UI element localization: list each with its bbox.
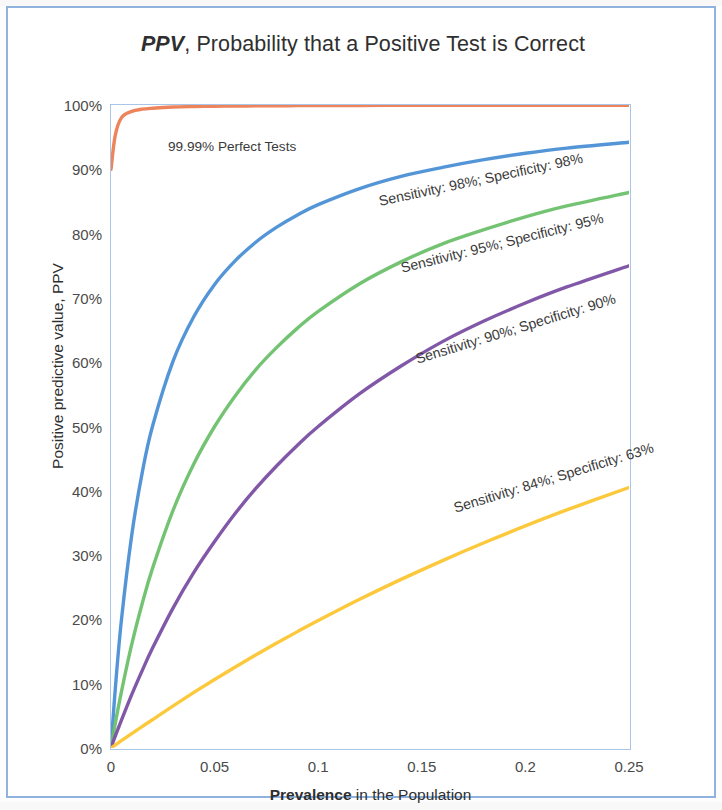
x-axis-title-rest: in the Population (352, 786, 472, 803)
y-tick-label: 90% (72, 161, 102, 178)
x-tick-label: 0.1 (308, 758, 329, 775)
y-axis-title: Positive predictive value, PPV (49, 166, 67, 566)
series-line-4 (111, 266, 629, 748)
y-tick-label: 80% (72, 225, 102, 242)
x-axis-title-emphasis: Prevalence (270, 786, 352, 803)
y-tick-label: 50% (72, 418, 102, 435)
x-tick-label: 0.2 (515, 758, 536, 775)
y-tick-label: 60% (72, 354, 102, 371)
x-tick-label: 0 (107, 758, 115, 775)
y-tick-label: 0% (80, 740, 102, 757)
chart-screenshot: PPV, Probability that a Positive Test is… (0, 0, 722, 810)
y-tick-label: 40% (72, 482, 102, 499)
x-tick-label: 0.25 (614, 758, 643, 775)
x-axis-title: Prevalence in the Population (110, 786, 631, 804)
series-line-5 (111, 488, 629, 748)
series-lines (111, 105, 629, 748)
chart-title-emphasis: PPV (141, 32, 184, 56)
chart-title: PPV, Probability that a Positive Test is… (8, 32, 718, 57)
x-tick-label: 0.15 (407, 758, 436, 775)
y-tick-label: 30% (72, 547, 102, 564)
y-tick-label: 10% (72, 675, 102, 692)
series-label-1: 99.99% Perfect Tests (168, 139, 296, 154)
plot-area: 0%10%20%30%40%50%60%70%80%90%100% 00.050… (110, 104, 631, 750)
x-tick-label: 0.05 (200, 758, 229, 775)
y-tick-label: 20% (72, 611, 102, 628)
y-tick-label: 70% (72, 289, 102, 306)
chart-title-rest: , Probability that a Positive Test is Co… (184, 32, 585, 56)
y-tick-label: 100% (64, 97, 102, 114)
chart-frame: PPV, Probability that a Positive Test is… (6, 6, 716, 798)
